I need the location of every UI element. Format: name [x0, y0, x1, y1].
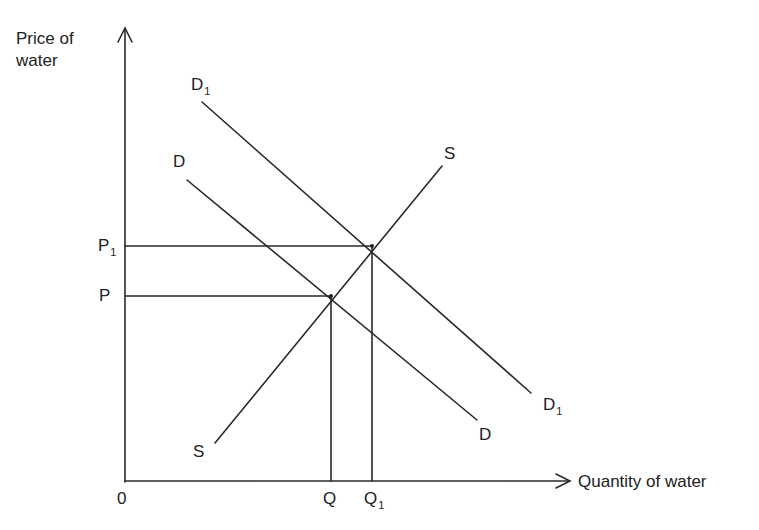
supply-demand-diagram [0, 0, 759, 530]
supply-label-top: S [444, 145, 455, 162]
demand-curve-d1 [202, 102, 531, 393]
y-axis-title: Price of water [16, 28, 74, 72]
equilibrium-point-new [370, 244, 374, 248]
quantity-label-q1: Q1 [364, 490, 384, 507]
demand1-label-top-main: D [191, 75, 203, 94]
y-axis-title-line2: water [16, 50, 74, 72]
quantity-label-q: Q [323, 490, 336, 507]
demand-label-top: D [173, 153, 185, 170]
x-axis-title: Quantity of water [578, 473, 707, 490]
demand1-label-top: D1 [191, 76, 210, 93]
demand-label-bottom: D [479, 426, 491, 443]
demand1-label-bottom-main: D [543, 395, 555, 414]
price-label-p1-sub: 1 [110, 246, 116, 258]
supply-curve-s [215, 166, 442, 443]
price-label-p1: P1 [98, 237, 116, 254]
price-label-p: P [99, 287, 110, 304]
price-label-p1-main: P [98, 236, 109, 255]
demand1-label-bottom-sub: 1 [556, 405, 562, 417]
demand1-label-bottom: D1 [543, 396, 562, 413]
supply-label-bottom: S [193, 443, 204, 460]
equilibrium-point-initial [329, 294, 333, 298]
demand1-label-top-sub: 1 [204, 85, 210, 97]
quantity-label-q1-main: Q [364, 489, 377, 508]
quantity-label-q1-sub: 1 [378, 499, 384, 511]
y-axis-title-line1: Price of [16, 28, 74, 50]
origin-label: 0 [117, 490, 126, 507]
